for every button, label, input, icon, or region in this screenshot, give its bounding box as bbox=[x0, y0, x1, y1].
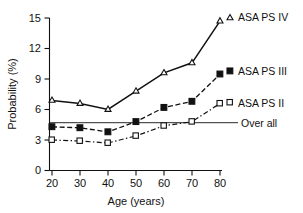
line-chart: 0 3 6 9 12 15 Probability (%) 20 bbox=[0, 0, 303, 213]
marker-asa-ps-iii-70 bbox=[189, 98, 195, 104]
x-tick-label-70: 70 bbox=[186, 177, 198, 189]
marker-asa-ps-ii-80 bbox=[217, 101, 222, 106]
x-tick-label-40: 40 bbox=[102, 177, 114, 189]
x-axis-ticks bbox=[52, 171, 220, 176]
x-tick-label-50: 50 bbox=[130, 177, 142, 189]
legend-marker-asa-ps-iv bbox=[227, 15, 233, 20]
x-tick-label-80: 80 bbox=[214, 177, 226, 189]
x-tick-label-20: 20 bbox=[46, 177, 58, 189]
overall-label: Over all bbox=[241, 117, 277, 129]
y-tick-label-3: 3 bbox=[35, 134, 41, 146]
marker-asa-ps-iii-60 bbox=[161, 105, 167, 111]
y-axis-ticks bbox=[45, 18, 50, 171]
legend-marker-asa-ps-ii bbox=[227, 100, 232, 105]
marker-asa-ps-ii-20 bbox=[49, 137, 54, 142]
series-label-asa-ps-iii: ASA PS III bbox=[238, 65, 287, 77]
y-axis-tick-labels: 0 3 6 9 12 15 bbox=[29, 12, 41, 177]
marker-asa-ps-ii-30 bbox=[77, 138, 82, 143]
marker-asa-ps-iii-50 bbox=[133, 119, 139, 125]
chart-figure: 0 3 6 9 12 15 Probability (%) 20 bbox=[0, 0, 303, 213]
series-label-asa-ps-iv: ASA PS IV bbox=[238, 11, 288, 23]
series-line-asa-ps-iv bbox=[52, 21, 220, 109]
x-axis: 20 30 40 50 60 70 80 Age (years) bbox=[46, 171, 226, 208]
y-tick-label-15: 15 bbox=[29, 12, 41, 24]
marker-asa-ps-iv-60 bbox=[161, 70, 167, 75]
marker-asa-ps-iv-40 bbox=[105, 106, 111, 111]
x-tick-label-30: 30 bbox=[74, 177, 86, 189]
marker-asa-ps-ii-60 bbox=[161, 123, 166, 128]
y-tick-label-9: 9 bbox=[35, 73, 41, 85]
marker-asa-ps-iii-80 bbox=[217, 71, 223, 77]
marker-asa-ps-ii-40 bbox=[105, 140, 110, 145]
y-axis-title: Probability (%) bbox=[6, 58, 18, 130]
legend-marker-asa-ps-iii bbox=[227, 68, 233, 74]
y-tick-label-12: 12 bbox=[29, 42, 41, 54]
y-tick-label-0: 0 bbox=[35, 164, 41, 176]
marker-asa-ps-iii-30 bbox=[77, 125, 83, 131]
marker-asa-ps-ii-70 bbox=[189, 119, 194, 124]
y-tick-label-6: 6 bbox=[35, 103, 41, 115]
y-axis: 0 3 6 9 12 15 Probability (%) bbox=[6, 12, 50, 177]
x-tick-label-60: 60 bbox=[158, 177, 170, 189]
x-axis-title: Age (years) bbox=[108, 195, 165, 207]
marker-asa-ps-iii-40 bbox=[105, 129, 111, 135]
marker-asa-ps-iv-30 bbox=[77, 100, 83, 105]
x-axis-tick-labels: 20 30 40 50 60 70 80 bbox=[46, 177, 226, 189]
marker-asa-ps-iv-80 bbox=[217, 18, 223, 23]
marker-asa-ps-iv-50 bbox=[133, 88, 139, 93]
series-label-asa-ps-ii: ASA PS II bbox=[238, 97, 284, 109]
marker-asa-ps-ii-50 bbox=[133, 133, 138, 138]
marker-asa-ps-iii-20 bbox=[49, 124, 55, 130]
